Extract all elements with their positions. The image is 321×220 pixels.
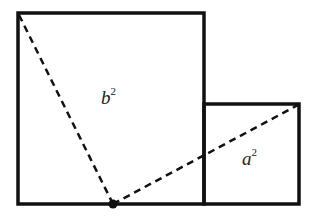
pythagorean-squares-diagram: b2 a2 [0, 0, 321, 220]
base-point [109, 200, 118, 209]
label-a-exponent: 2 [252, 146, 258, 158]
label-b-base: b [101, 87, 111, 108]
label-a-base: a [242, 148, 252, 169]
label-a-squared: a2 [242, 146, 257, 169]
dashed-line-left [19, 15, 113, 204]
label-b-squared: b2 [101, 85, 116, 108]
label-b-exponent: 2 [111, 85, 117, 97]
large-square-b2 [18, 13, 204, 204]
